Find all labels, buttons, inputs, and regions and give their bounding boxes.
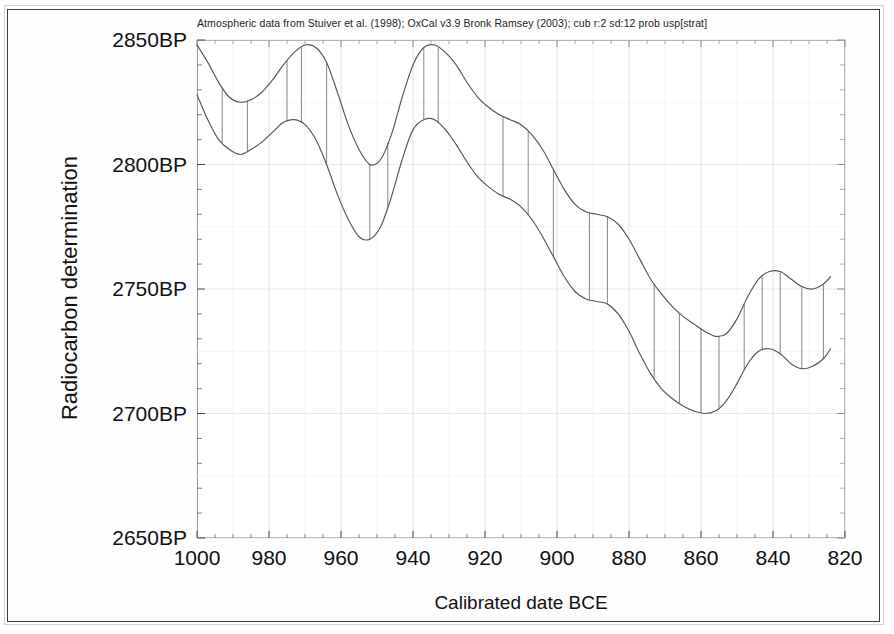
y-tick-label: 2700BP	[0, 402, 187, 426]
x-tick-label: 880	[611, 546, 646, 570]
calibration-curve-band	[197, 45, 831, 414]
y-tick-label: 2750BP	[0, 277, 187, 301]
y-tick-label: 2650BP	[0, 526, 187, 550]
x-tick-label: 920	[467, 546, 502, 570]
x-tick-label: 900	[539, 546, 574, 570]
y-tick-label: 2800BP	[0, 153, 187, 177]
x-tick-label: 980	[251, 546, 286, 570]
x-tick-label: 960	[323, 546, 358, 570]
x-tick-label: 820	[827, 546, 862, 570]
y-tick-label: 2850BP	[0, 28, 187, 52]
x-tick-label: 860	[683, 546, 718, 570]
x-tick-label: 940	[395, 546, 430, 570]
x-tick-label: 840	[755, 546, 790, 570]
grid-lines	[197, 40, 845, 538]
scanned-page: Atmospheric data from Stuiver et al. (19…	[0, 0, 894, 634]
x-tick-label: 1000	[174, 546, 221, 570]
